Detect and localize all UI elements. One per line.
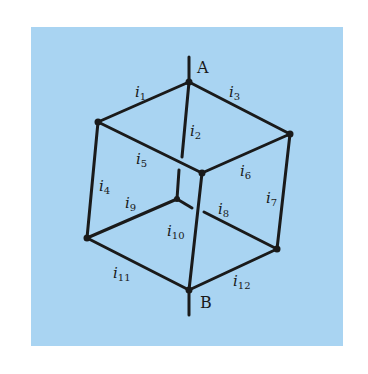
cube-circuit-diagram: A B i1 i2 i3 i4 i5 i6 i7 i8 i9 i10 i11 i… bbox=[0, 0, 368, 374]
vertex-right-lower bbox=[274, 246, 281, 253]
label-i5: i5 bbox=[136, 150, 147, 169]
edge-i1 bbox=[98, 82, 189, 122]
vertex-right-upper bbox=[287, 131, 294, 138]
edge-i2-lower bbox=[177, 170, 179, 199]
node-label-b: B bbox=[200, 293, 212, 312]
vertex-top bbox=[186, 79, 193, 86]
edge-i7 bbox=[277, 134, 290, 249]
edge-i8 bbox=[204, 212, 277, 249]
edge-i4 bbox=[87, 122, 98, 238]
label-i4: i4 bbox=[99, 177, 110, 196]
label-i7: i7 bbox=[266, 189, 277, 208]
label-i1: i1 bbox=[135, 83, 146, 102]
vertex-front bbox=[199, 170, 206, 177]
label-i10: i10 bbox=[167, 222, 185, 241]
label-i2: i2 bbox=[190, 122, 201, 141]
edge-i3 bbox=[189, 82, 290, 134]
label-i3: i3 bbox=[229, 83, 240, 102]
label-i8: i8 bbox=[218, 200, 229, 219]
edge-i5 bbox=[98, 122, 202, 173]
vertex-left-lower bbox=[84, 235, 91, 242]
edge-i6 bbox=[202, 134, 290, 173]
node-label-a: A bbox=[196, 58, 209, 77]
label-i6: i6 bbox=[240, 162, 251, 181]
label-i11: i11 bbox=[113, 264, 131, 283]
edge-i11 bbox=[87, 238, 189, 290]
edge-i2-upper bbox=[182, 82, 189, 157]
vertex-bottom bbox=[186, 287, 193, 294]
edge-i10 bbox=[189, 173, 202, 290]
vertex-back bbox=[174, 196, 180, 202]
vertex-left-upper bbox=[95, 119, 102, 126]
label-i9: i9 bbox=[125, 194, 136, 213]
label-i12: i12 bbox=[233, 272, 251, 291]
